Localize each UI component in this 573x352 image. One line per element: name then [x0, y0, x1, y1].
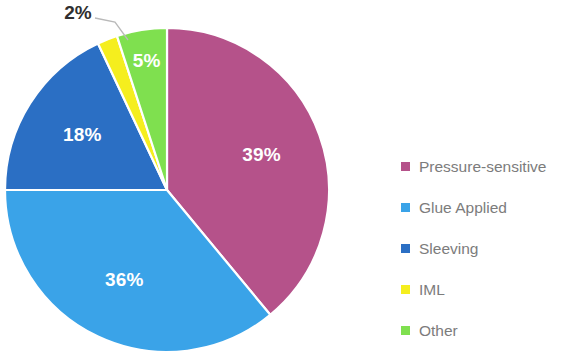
legend-swatch-sleeving [401, 244, 410, 253]
legend-label-pressure-sensitive: Pressure-sensitive [419, 159, 547, 175]
legend-item-other[interactable]: Other [401, 310, 573, 351]
legend-item-iml[interactable]: IML [401, 269, 573, 310]
legend-item-glue-applied[interactable]: Glue Applied [401, 187, 573, 228]
legend-swatch-iml [401, 285, 410, 294]
legend-label-other: Other [419, 323, 458, 339]
slice-value-label-glue-applied: 36% [105, 269, 144, 290]
slice-value-label-pressure-sensitive: 39% [242, 144, 281, 165]
legend-label-sleeving: Sleeving [419, 241, 478, 257]
legend-item-pressure-sensitive[interactable]: Pressure-sensitive [401, 146, 573, 187]
legend-swatch-glue-applied [401, 203, 410, 212]
slice-value-label-sleeving: 18% [63, 124, 102, 145]
legend-label-glue-applied: Glue Applied [419, 200, 507, 216]
slice-value-label-iml: 2% [64, 2, 92, 23]
legend-swatch-pressure-sensitive [401, 162, 410, 171]
pie-slices [5, 28, 329, 352]
chart-legend: Pressure-sensitive Glue Applied Sleeving… [401, 146, 573, 351]
slice-value-label-other: 5% [133, 50, 161, 71]
pie-plot-area: 39%36%18%2%5% [0, 0, 360, 352]
legend-label-iml: IML [419, 282, 445, 298]
pie-svg: 39%36%18%2%5% [0, 0, 360, 352]
legend-swatch-other [401, 326, 410, 335]
pie-chart: 39%36%18%2%5% Pressure-sensitive Glue Ap… [0, 0, 573, 352]
legend-item-sleeving[interactable]: Sleeving [401, 228, 573, 269]
